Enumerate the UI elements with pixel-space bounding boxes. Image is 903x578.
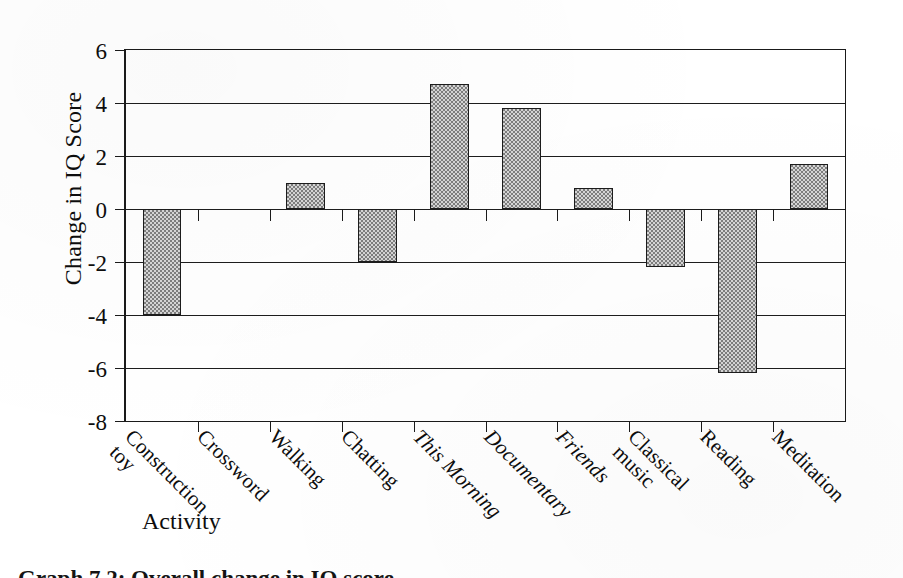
x-label-reading: Reading [696, 426, 761, 491]
x-tick-baseline-5 [557, 209, 558, 221]
y-tick-label--8: -8 [88, 411, 107, 434]
x-label-classical-music: Classical music [608, 426, 692, 510]
bar-reading [718, 209, 757, 373]
x-tick-baseline-6 [629, 209, 630, 221]
y-tick-6: 6 [115, 50, 126, 51]
bar-construction-toy [143, 209, 182, 315]
x-label-friends: Friends [552, 426, 614, 488]
figure-caption-sliver: Graph 7.2: Overall change in IQ score [18, 566, 394, 578]
x-label-meditation: Meditation [768, 426, 849, 507]
bar-chatting [358, 209, 397, 262]
x-label-walking: Walking [264, 426, 329, 491]
y-tick-label-0: 0 [96, 199, 108, 222]
x-axis-category-labels: Construction toyCrosswordWalkingChatting… [124, 424, 846, 544]
y-tick-label-4: 4 [96, 93, 108, 116]
y-tick-label-2: 2 [96, 146, 108, 169]
gridline-2 [126, 156, 845, 157]
bar-classical-music [646, 209, 685, 267]
bar-walking [286, 183, 325, 210]
bar-meditation [790, 164, 829, 209]
y-axis-title: Change in IQ Score [60, 24, 87, 354]
gridline-4 [126, 103, 845, 104]
y-tick--2: -2 [115, 262, 126, 263]
y-tick--6: -6 [115, 368, 126, 369]
x-label-chatting: Chatting [336, 426, 403, 493]
y-tick-0: 0 [115, 209, 126, 210]
y-tick--8: -8 [115, 421, 126, 422]
bar-this-morning [430, 84, 469, 209]
x-tick-baseline-3 [414, 209, 415, 221]
y-tick--4: -4 [115, 315, 126, 316]
x-tick-baseline-1 [270, 209, 271, 221]
y-tick-label--4: -4 [88, 305, 107, 328]
x-tick-baseline-7 [701, 209, 702, 221]
y-tick-label--6: -6 [88, 358, 107, 381]
x-tick-baseline-0 [198, 209, 199, 221]
x-tick-baseline-8 [773, 209, 774, 221]
bar-documentary [502, 108, 541, 209]
x-tick-baseline-2 [342, 209, 343, 221]
plot-area: 6420-2-4-6-8 [124, 49, 846, 422]
bar-friends [574, 188, 613, 209]
y-tick-label-6: 6 [96, 40, 108, 63]
chart-figure: Change in IQ Score 6420-2-4-6-8 Construc… [0, 0, 903, 578]
y-tick-label--2: -2 [88, 252, 107, 275]
y-tick-4: 4 [115, 103, 126, 104]
x-tick-baseline-4 [486, 209, 487, 221]
y-tick-2: 2 [115, 156, 126, 157]
x-axis-title: Activity [142, 508, 221, 535]
